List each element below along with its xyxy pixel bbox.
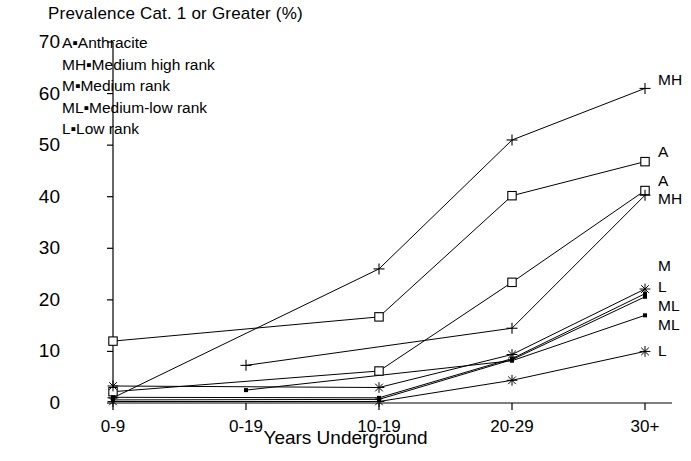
y-tick-label: 60 [20,84,60,103]
series-end-label: L [658,343,667,359]
y-tick-label: 10 [20,341,60,360]
y-tick-label: 0 [20,393,60,412]
axes-group [107,42,672,410]
y-tick-label: 20 [20,290,60,309]
series-end-label: L [658,279,667,295]
series-line-a-2 [113,191,645,392]
series-end-label: A [658,144,668,160]
plot-canvas [0,0,691,461]
series-end-label: ML [658,317,680,333]
series-end-label: A [658,173,668,189]
chart-root: Prevalence Cat. 1 or Greater (%) A▪Anthr… [0,0,691,461]
series-line-mh-2 [246,195,645,365]
series-end-label: MH [658,191,682,207]
series-end-label: MH [658,72,682,88]
series-line-mh [113,88,645,397]
y-tick-label: 40 [20,187,60,206]
x-axis-title: Years Underground [0,427,691,449]
y-tick-label: 30 [20,238,60,257]
series-markers-group [108,83,651,407]
y-tick-label: 50 [20,135,60,154]
series-end-label: M [658,258,671,274]
series-end-label: ML [658,298,680,314]
series-lines-group [113,88,645,401]
y-tick-label: 70 [20,32,60,51]
